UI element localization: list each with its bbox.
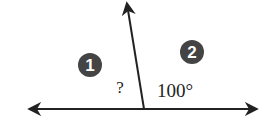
region-badge-1: 1 bbox=[78, 53, 102, 77]
diagram-canvas: 1 2 ? 100° bbox=[0, 0, 278, 129]
ray bbox=[127, 4, 144, 109]
angle-diagram: 1 2 ? 100° bbox=[0, 0, 278, 129]
svg-text:1: 1 bbox=[85, 56, 94, 75]
unknown-angle-label: ? bbox=[116, 78, 124, 97]
svg-text:2: 2 bbox=[187, 43, 196, 62]
region-badge-2: 2 bbox=[180, 40, 204, 64]
known-angle-label: 100° bbox=[157, 80, 193, 101]
